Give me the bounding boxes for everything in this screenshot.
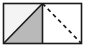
figure-canvas (0, 0, 86, 49)
geometric-figure (0, 0, 86, 49)
